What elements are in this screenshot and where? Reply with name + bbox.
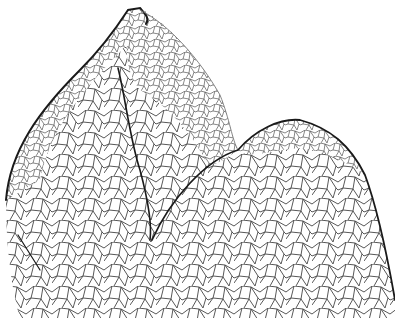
cell-fill — [0, 0, 395, 318]
cell-tissue-illustration — [0, 0, 395, 318]
